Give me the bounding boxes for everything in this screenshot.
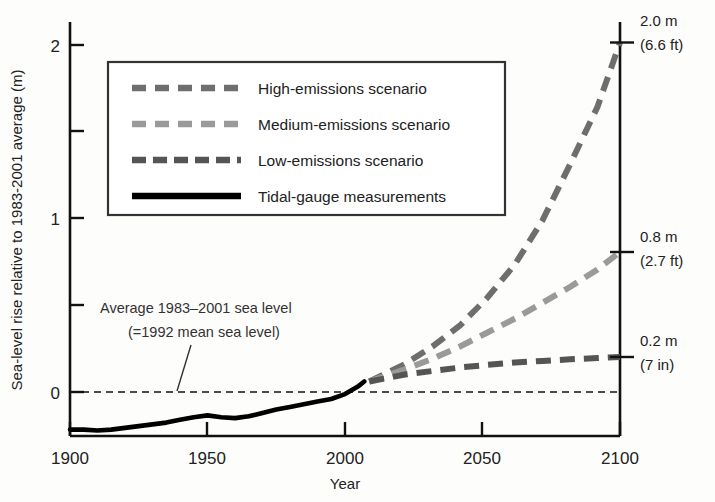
- chart-legend: High-emissions scenario Medium-emissions…: [108, 62, 505, 215]
- right-label-medium-value: 0.8 m: [640, 228, 678, 245]
- sea-level-rise-chart: 2 1 0 1900 1950 2000 2050 2100 Year Sea-…: [0, 0, 715, 502]
- y-tick-label-0: 0: [51, 384, 60, 403]
- x-tick-label-1950: 1950: [188, 449, 226, 468]
- right-label-low-value: 0.2 m: [640, 332, 678, 349]
- x-tick-label-2000: 2000: [326, 449, 364, 468]
- right-label-low-alt: (7 in): [640, 356, 674, 373]
- y-tick-label-1: 1: [51, 210, 60, 229]
- y-axis-title: Sea-level rise relative to 1983-2001 ave…: [8, 69, 25, 390]
- series-tidal-gauge: [70, 382, 364, 431]
- x-tick-label-1900: 1900: [51, 449, 89, 468]
- legend-label-medium-emissions: Medium-emissions scenario: [258, 116, 450, 133]
- right-label-medium: 0.8 m (2.7 ft): [640, 228, 683, 269]
- annotation-line-2: (=1992 mean sea level): [128, 324, 280, 340]
- chart-svg: 2 1 0 1900 1950 2000 2050 2100 Year Sea-…: [0, 0, 715, 502]
- right-endpoint-ticks: [610, 43, 634, 358]
- right-label-high: 2.0 m (6.6 ft): [640, 12, 683, 53]
- annotation-line-1: Average 1983–2001 sea level: [100, 300, 292, 316]
- y-tick-marks: [70, 45, 84, 392]
- right-label-medium-alt: (2.7 ft): [640, 252, 683, 269]
- legend-label-high-emissions: High-emissions scenario: [258, 80, 427, 97]
- right-label-high-value: 2.0 m: [640, 12, 678, 29]
- right-label-high-alt: (6.6 ft): [640, 36, 683, 53]
- legend-label-low-emissions: Low-emissions scenario: [258, 152, 423, 169]
- x-tick-label-2100: 2100: [601, 449, 639, 468]
- legend-label-tidal-gauge: Tidal-gauge measurements: [258, 188, 446, 205]
- zero-line-annotation: Average 1983–2001 sea level (=1992 mean …: [100, 300, 292, 391]
- y-tick-label-2: 2: [51, 37, 60, 56]
- right-label-low: 0.2 m (7 in): [640, 332, 678, 373]
- annotation-leader-line: [177, 345, 191, 391]
- x-tick-label-2050: 2050: [463, 449, 501, 468]
- x-axis-title: Year: [330, 475, 360, 492]
- series-low-emissions: [369, 357, 620, 382]
